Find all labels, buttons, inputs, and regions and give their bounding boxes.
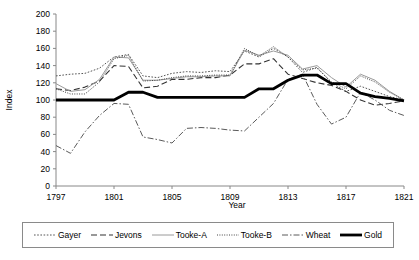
x-axis-title: Year [228,200,245,210]
y-axis-tick-labels: 020406080100120140160180200 [36,9,50,191]
chart-figure: 020406080100120140160180200 179718011805… [0,0,419,260]
legend-item-label: Wheat [306,231,331,240]
legend-item-label: Tooke-A [176,231,207,240]
x-tick-label: 1805 [163,192,182,202]
y-tick-label: 0 [45,181,50,191]
axis-lines [53,14,404,189]
legend-item-jevons[interactable]: Jevons [91,230,142,240]
series-line-tooke-a [56,50,404,100]
legend-item-gayer[interactable]: Gayer [34,230,81,240]
y-tick-label: 160 [36,43,50,53]
legend-item-label: Gayer [58,231,81,240]
series-line-gayer [56,48,404,100]
chart-legend: GayerJevonsTooke-ATooke-BWheatGold [22,222,394,248]
legend-item-label: Jevons [115,231,142,240]
legend-item-gold[interactable]: Gold [340,230,382,240]
y-axis-title: Index [4,89,14,111]
y-tick-label: 80 [41,112,51,122]
fine-dotted-line-swatch [217,230,239,240]
x-tick-label: 1817 [337,192,356,202]
y-tick-label: 40 [41,147,51,157]
y-tick-label: 140 [36,61,50,71]
legend-item-tooke-a[interactable]: Tooke-A [152,230,207,240]
x-tick-label: 1813 [279,192,298,202]
legend-item-tooke-b[interactable]: Tooke-B [217,230,272,240]
y-tick-label: 20 [41,164,51,174]
y-tick-label: 60 [41,129,51,139]
data-series-group [56,47,404,154]
dash-dot-line-swatch [282,230,304,240]
x-tick-label: 1801 [105,192,124,202]
y-tick-label: 180 [36,26,50,36]
solid-line-swatch [152,230,174,240]
x-tick-label: 1797 [47,192,66,202]
legend-item-label: Gold [364,231,382,240]
dashed-line-swatch [91,230,113,240]
series-line-gold [56,75,404,101]
y-tick-label: 200 [36,9,50,19]
series-line-tooke-b [56,47,404,100]
chart-plot-area: 020406080100120140160180200 179718011805… [0,0,419,212]
bold-solid-line-swatch [340,230,362,240]
y-tick-label: 100 [36,95,50,105]
legend-item-label: Tooke-B [241,231,272,240]
dotted-line-swatch [34,230,56,240]
y-tick-label: 120 [36,78,50,88]
x-tick-label: 1821 [395,192,414,202]
line-chart-svg: 020406080100120140160180200 179718011805… [0,0,419,212]
legend-item-wheat[interactable]: Wheat [282,230,331,240]
